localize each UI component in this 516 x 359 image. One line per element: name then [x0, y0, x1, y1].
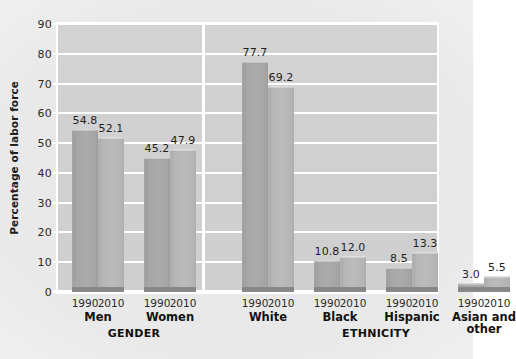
- bar-base-shadow: [314, 287, 340, 292]
- bar-value-label: 3.0: [462, 268, 480, 281]
- y-axis-tick-label: 0: [30, 286, 52, 299]
- bar-value-label: 13.3: [413, 237, 438, 250]
- bar-top-highlight: [98, 137, 124, 139]
- x-axis-year-label: 2010: [484, 297, 511, 309]
- bar-base-shadow: [268, 287, 294, 292]
- bar-value-label: 52.1: [99, 122, 124, 135]
- y-axis-tick: [52, 53, 58, 55]
- bar-base-shadow: [170, 287, 196, 292]
- x-axis-year-label: 1990: [144, 297, 171, 309]
- y-axis-tick: [52, 83, 58, 85]
- bar-top-highlight: [268, 86, 294, 88]
- bar-top-highlight: [242, 61, 268, 63]
- y-axis-tick-label: 90: [30, 18, 52, 31]
- y-axis-tick-label: 10: [30, 256, 52, 269]
- x-axis-year-label: 2010: [268, 297, 295, 309]
- x-axis-year-label: 2010: [340, 297, 367, 309]
- bar-asian-and-other-1990: [458, 283, 484, 292]
- section-divider: [202, 24, 205, 292]
- bar-top-highlight: [340, 256, 366, 258]
- y-axis-tick-label: 40: [30, 166, 52, 179]
- bar-hispanic-1990: [386, 267, 412, 292]
- x-axis-year-label: 2010: [412, 297, 439, 309]
- bar-black-1990: [314, 260, 340, 292]
- section-label-ethnicity: ETHNICITY: [342, 327, 410, 340]
- bar-value-label: 47.9: [171, 134, 196, 147]
- y-axis-tick: [52, 142, 58, 144]
- bar-top-highlight: [386, 267, 412, 269]
- y-axis-tick-label: 30: [30, 196, 52, 209]
- bar-top-highlight: [144, 157, 170, 159]
- bar-asian-and-other-2010: [484, 276, 510, 292]
- bar-black-2010: [340, 256, 366, 292]
- bar-men-2010: [98, 137, 124, 292]
- y-axis-tick: [52, 231, 58, 233]
- y-axis-title: Percentage of labor force: [6, 24, 22, 292]
- bar-base-shadow: [458, 287, 484, 292]
- bar-value-label: 45.2: [145, 142, 170, 155]
- bar-base-shadow: [144, 287, 170, 292]
- bar-value-label: 5.5: [488, 261, 506, 274]
- y-axis-tick-label: 80: [30, 47, 52, 60]
- y-axis-tick-label: 50: [30, 137, 52, 150]
- x-axis-year-label: 1990: [242, 297, 269, 309]
- gridline: [58, 23, 437, 25]
- bar-men-1990: [72, 129, 98, 292]
- bar-women-2010: [170, 149, 196, 292]
- x-axis-category-label: Asian andother: [452, 311, 516, 335]
- y-axis-tick-label: 20: [30, 226, 52, 239]
- y-axis-tick: [52, 23, 58, 25]
- x-axis-category-label-line: other: [452, 323, 516, 335]
- y-axis-tick-label: 70: [30, 77, 52, 90]
- bar-value-label: 12.0: [341, 241, 366, 254]
- bar-top-highlight: [412, 252, 438, 254]
- y-axis-tick: [52, 112, 58, 114]
- y-axis-tick-label: 60: [30, 107, 52, 120]
- bar-base-shadow: [484, 287, 510, 292]
- bar-white-1990: [242, 61, 268, 292]
- plot-area: [58, 24, 437, 292]
- bar-women-1990: [144, 157, 170, 292]
- bar-value-label: 10.8: [315, 245, 340, 258]
- bar-base-shadow: [386, 287, 412, 292]
- x-axis-year-label: 2010: [170, 297, 197, 309]
- bar-top-highlight: [458, 283, 484, 285]
- section-label-gender: GENDER: [108, 327, 161, 340]
- x-axis-year-label: 1990: [72, 297, 99, 309]
- y-axis-tick: [52, 261, 58, 263]
- x-axis-category-label: White: [249, 311, 287, 323]
- bar-top-highlight: [170, 149, 196, 151]
- x-axis-category-label: Black: [323, 311, 358, 323]
- x-axis-year-label: 1990: [458, 297, 485, 309]
- bar-top-highlight: [72, 129, 98, 131]
- x-axis-category-label: Women: [146, 311, 194, 323]
- bar-base-shadow: [340, 287, 366, 292]
- bar-value-label: 77.7: [243, 46, 268, 59]
- y-axis-title-text: Percentage of labor force: [8, 81, 20, 235]
- bar-value-label: 54.8: [73, 114, 98, 127]
- bar-white-2010: [268, 86, 294, 292]
- bar-base-shadow: [242, 287, 268, 292]
- y-axis-tick: [52, 172, 58, 174]
- bar-top-highlight: [484, 276, 510, 278]
- x-axis-year-label: 1990: [314, 297, 341, 309]
- bar-value-label: 69.2: [269, 71, 294, 84]
- x-axis-category-label: Men: [84, 311, 111, 323]
- y-axis-tick: [52, 202, 58, 204]
- bar-base-shadow: [98, 287, 124, 292]
- x-axis-category-label: Hispanic: [384, 311, 439, 323]
- bar-top-highlight: [314, 260, 340, 262]
- bar-value-label: 8.5: [390, 252, 408, 265]
- bar-base-shadow: [72, 287, 98, 292]
- bar-base-shadow: [412, 287, 438, 292]
- bar-hispanic-2010: [412, 252, 438, 292]
- x-axis-year-label: 2010: [98, 297, 125, 309]
- x-axis-year-label: 1990: [386, 297, 413, 309]
